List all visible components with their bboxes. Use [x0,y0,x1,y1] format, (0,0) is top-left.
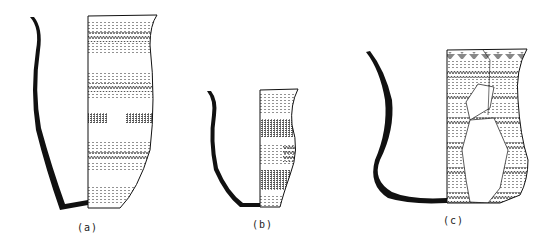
vessel-b-label: (b) [252,219,273,230]
vessel-c-label: (c) [443,215,464,226]
vessel-a-label: (a) [77,222,98,233]
pottery-figure [0,0,558,244]
vessel-c-decoration [447,49,532,203]
vessel-b [207,89,305,207]
vessel-c [366,49,532,203]
vessel-b-profile-wall [207,91,260,207]
vessel-b-decoration [260,89,305,207]
vessel-c-profile-wall [366,51,447,203]
vessel-a [30,15,160,210]
vessel-a-decoration [88,15,160,208]
